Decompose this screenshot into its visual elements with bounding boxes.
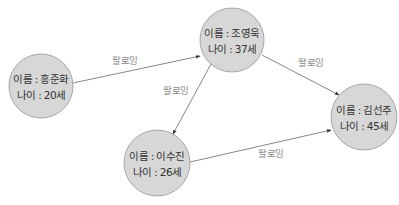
follow-graph-diagram: 팔로잉 팔로잉 팔로잉 팔로잉 이름 : 홍준화 나이 : 20세 이름 : 조… — [0, 0, 399, 205]
edge-label-following: 팔로잉 — [258, 148, 284, 159]
node-name-label: 이름 : 홍준화 — [13, 73, 69, 85]
nodes-layer: 이름 : 홍준화 나이 : 20세 이름 : 조영욱 나이 : 37세 이름 :… — [9, 8, 397, 196]
node-circle — [9, 54, 73, 118]
node-age-label: 나이 : 26세 — [133, 166, 182, 178]
edges-layer: 팔로잉 팔로잉 팔로잉 팔로잉 — [73, 55, 339, 162]
node-age-label: 나이 : 45세 — [340, 120, 389, 132]
edge-jo-to-lee: 팔로잉 — [163, 64, 211, 134]
node-circle — [124, 130, 190, 196]
edge-hong-to-jo: 팔로잉 — [73, 55, 200, 83]
node-age-label: 나이 : 37세 — [208, 43, 257, 55]
edge-label-following: 팔로잉 — [112, 55, 138, 66]
node-circle — [331, 84, 397, 150]
node-kim-seonju: 이름 : 김선주 나이 : 45세 — [331, 84, 397, 150]
node-name-label: 이름 : 조영욱 — [204, 27, 260, 39]
node-age-label: 나이 : 20세 — [17, 89, 66, 101]
arrow-line — [173, 64, 211, 134]
node-name-label: 이름 : 김선주 — [336, 104, 392, 116]
edge-lee-to-kim: 팔로잉 — [190, 130, 331, 162]
node-circle — [200, 8, 264, 72]
node-lee-sujin: 이름 : 이수진 나이 : 26세 — [124, 130, 190, 196]
edge-label-following: 팔로잉 — [298, 57, 324, 68]
edge-label-following: 팔로잉 — [163, 85, 189, 96]
node-name-label: 이름 : 이수진 — [129, 150, 184, 162]
node-hong-junhwa: 이름 : 홍준화 나이 : 20세 — [9, 54, 73, 118]
node-jo-youngwook: 이름 : 조영욱 나이 : 37세 — [200, 8, 264, 72]
edge-jo-to-kim: 팔로잉 — [262, 55, 339, 95]
